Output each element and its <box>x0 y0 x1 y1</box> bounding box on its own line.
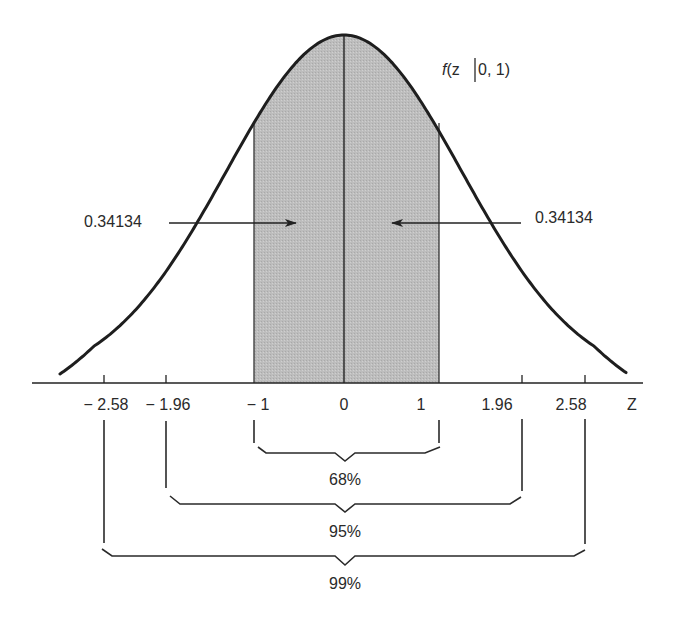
tick-label-neg-1: − 1 <box>247 396 270 413</box>
tick-label-0: 0 <box>340 396 349 413</box>
interval-bracket-68 <box>254 420 440 461</box>
normal-distribution-chart: − 2.58 − 1.96 − 1 0 1 1.96 2.58 Z f(z 0,… <box>0 0 681 622</box>
tick-label-1: 1 <box>417 396 426 413</box>
tick-label-2-58: 2.58 <box>555 396 586 413</box>
tick-label-neg-1-96: − 1.96 <box>146 396 191 413</box>
area-label-left: 0.34134 <box>84 213 142 230</box>
tick-label-neg-2-58: − 2.58 <box>84 396 129 413</box>
curve-label: f(z 0, 1) <box>442 58 510 82</box>
axis-label-z: Z <box>627 396 637 413</box>
interval-label-95: 95% <box>329 523 361 540</box>
interval-bracket-99 <box>102 419 585 565</box>
svg-text:f(z: f(z <box>442 61 460 78</box>
interval-label-68: 68% <box>329 471 361 488</box>
curve-label-params: 0, 1) <box>478 61 510 78</box>
interval-label-99: 99% <box>329 575 361 592</box>
curve-label-arg: (z <box>446 61 459 78</box>
interval-bracket-95 <box>166 419 522 512</box>
tick-label-1-96: 1.96 <box>481 396 512 413</box>
area-label-right: 0.34134 <box>535 209 593 226</box>
